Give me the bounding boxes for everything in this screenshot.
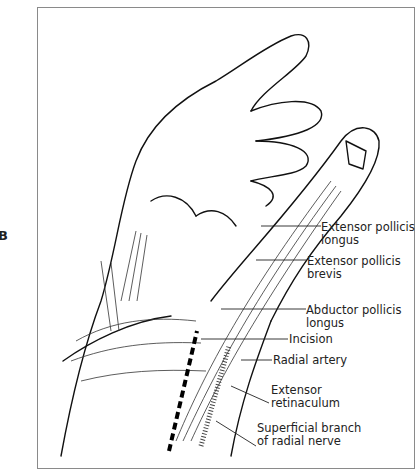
label-radial-artery: Radial artery bbox=[273, 354, 347, 367]
label-abductor-pollicis-longus: Abductor pollicis longus bbox=[306, 304, 401, 330]
panel-letter: B bbox=[0, 228, 8, 243]
label-extensor-pollicis-brevis: Extensor pollicis brevis bbox=[307, 255, 401, 281]
figure-frame: Extensor pollicis longus Extensor pollic… bbox=[37, 7, 415, 469]
label-extensor-pollicis-longus: Extensor pollicis longus bbox=[321, 221, 415, 247]
label-incision: Incision bbox=[289, 333, 333, 346]
label-extensor-retinaculum: Extensor retinaculum bbox=[271, 384, 340, 410]
label-superficial-branch-radial-nerve: Superficial branch of radial nerve bbox=[257, 422, 361, 448]
